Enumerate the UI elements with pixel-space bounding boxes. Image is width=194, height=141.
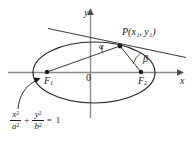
y-axis	[87, 8, 93, 118]
eq-plus-sign: +	[23, 116, 30, 125]
angle-beta-label: β	[143, 54, 148, 64]
eq-x-num-exponent: 2	[16, 110, 19, 116]
tangent-line-at-p	[48, 29, 186, 58]
point-p-marker	[118, 44, 123, 49]
eq-right-hand-side: 1	[55, 116, 62, 125]
x-axis-label: x	[180, 76, 184, 86]
focus-point-f2	[139, 70, 143, 74]
eq-a-den-exponent: 2	[17, 122, 20, 128]
angle-arc-beta	[133, 53, 141, 64]
eq-equals-sign: =	[46, 116, 53, 125]
focal-radius-f1-p	[47, 46, 120, 72]
ellipse-equation: x2 a2 + y2 b2 = 1	[10, 110, 61, 131]
focus-f1-subscript: 1	[50, 79, 53, 86]
eq-b-den-exponent: 2	[39, 122, 42, 128]
eq-y-num-exponent: 2	[39, 110, 42, 116]
focus-f1-label: F1	[44, 76, 53, 87]
focus-f2-label: F2	[138, 76, 147, 87]
focus-f2-subscript: 2	[144, 79, 147, 86]
point-p-label: P(x₁, y₁)	[122, 27, 156, 37]
y-axis-label: y	[84, 8, 88, 18]
origin-label: 0	[86, 73, 91, 83]
ellipse-diagram-figure: y x 0 P(x₁, y₁) F1 F2 α β x2 a2 + y2 b2 …	[0, 0, 194, 141]
x-axis	[8, 69, 184, 76]
equation-leader-line	[18, 78, 41, 109]
angle-alpha-label: α	[99, 42, 104, 51]
focus-point-f1	[45, 70, 49, 74]
focal-radius-f2-p	[120, 46, 141, 72]
equation-term-x: x2 a2	[10, 110, 21, 131]
equation-term-y: y2 b2	[32, 110, 43, 131]
point-p-coords: (x₁, y₁)	[128, 26, 156, 37]
